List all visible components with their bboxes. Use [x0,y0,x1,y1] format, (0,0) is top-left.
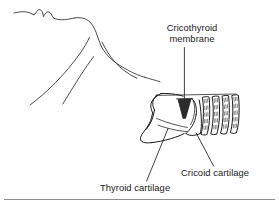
head-neck-profile-outline [14,10,160,105]
cricothyroid-membrane-wedge [176,98,192,118]
anatomy-figure: Cricothyroid membrane Thyroid cartilage … [0,0,279,210]
label-cricoid-cartilage: Cricoid cartilage [181,168,249,179]
label-cricothyroid-membrane: Cricothyroid membrane [152,23,232,44]
label-cricothyroid-line1: Cricothyroid [152,23,232,34]
label-thyroid-cartilage: Thyroid cartilage [100,183,170,194]
tracheal-rings [201,95,239,135]
leader-line-cricoid [196,133,213,166]
label-cricothyroid-line2: membrane [152,34,232,45]
leader-line-thyroid [147,129,168,181]
